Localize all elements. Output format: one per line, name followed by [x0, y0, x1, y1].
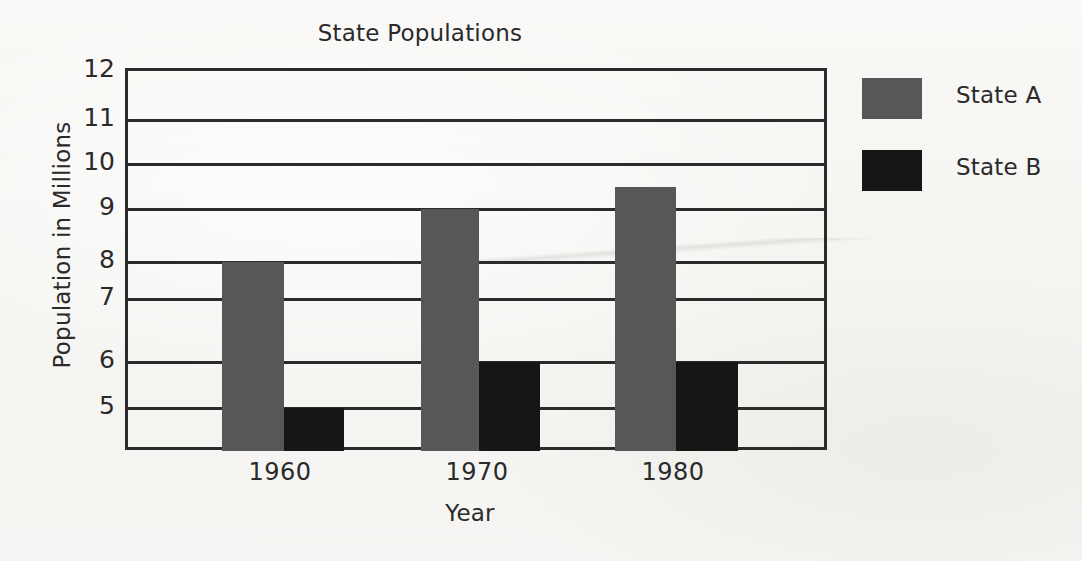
y-tick-label: 12: [69, 54, 115, 83]
legend-label: State A: [956, 82, 1041, 108]
bar-1980-state-a: [615, 187, 676, 452]
y-tick-label: 9: [69, 192, 115, 221]
y-tick-label: 10: [69, 147, 115, 176]
legend-swatch-state-b: [862, 150, 922, 191]
y-tick-label: 5: [69, 391, 115, 420]
legend-label: State B: [956, 154, 1041, 180]
chart-legend: State AState B: [858, 70, 1078, 214]
bar-1980-state-b: [676, 362, 738, 451]
y-tick-label: 6: [69, 345, 115, 374]
chart-title: State Populations: [0, 20, 840, 46]
gridline-11: [128, 119, 824, 122]
bar-1960-state-a: [222, 262, 284, 451]
legend-item: State A: [858, 70, 1078, 142]
x-tick-label: 1970: [407, 458, 547, 486]
x-axis-title: Year: [330, 500, 610, 526]
gridline-10: [128, 163, 824, 166]
x-tick-label: 1960: [210, 458, 350, 486]
legend-swatch-state-a: [862, 78, 922, 119]
bar-1970-state-b: [479, 362, 540, 451]
chart-figure: State Populations Population in Millions…: [0, 0, 1082, 561]
x-tick-label: 1980: [603, 458, 743, 486]
bar-1970-state-a: [421, 209, 479, 451]
y-tick-label: 7: [69, 282, 115, 311]
plot-area: [125, 68, 827, 450]
bar-1960-state-b: [284, 408, 344, 451]
legend-item: State B: [858, 142, 1078, 214]
y-tick-label: 11: [69, 103, 115, 132]
y-tick-label: 8: [69, 245, 115, 274]
